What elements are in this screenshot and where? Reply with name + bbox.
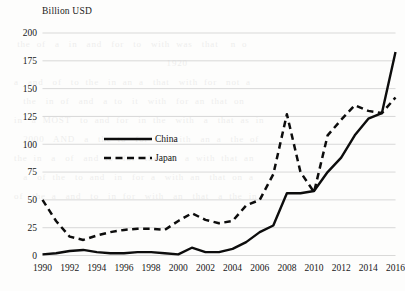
y-tick-label-125: 125 <box>23 112 38 122</box>
x-tick-label-2014: 2014 <box>359 263 378 273</box>
y-tick-label-25: 25 <box>28 223 38 233</box>
legend-label-china: China <box>155 134 178 144</box>
y-tick-label-0: 0 <box>32 251 37 261</box>
y-tick-label-200: 200 <box>23 28 38 38</box>
y-tick-label-75: 75 <box>28 167 38 177</box>
x-tick-label-1998: 1998 <box>142 263 161 273</box>
y-tick-label-100: 100 <box>23 140 38 150</box>
x-tick-label-2012: 2012 <box>332 263 351 273</box>
x-tick-label-1994: 1994 <box>87 263 106 273</box>
y-tick-label-50: 50 <box>28 195 38 205</box>
x-tick-label-1992: 1992 <box>60 263 79 273</box>
x-tick-label-2008: 2008 <box>277 263 296 273</box>
line-chart-plot: 0255075100125150175200 19901992199419961… <box>0 0 405 291</box>
x-tick-label-2002: 2002 <box>196 263 215 273</box>
y-tick-label-150: 150 <box>23 84 38 94</box>
legend-label-japan: Japan <box>155 153 177 163</box>
x-tick-label-2004: 2004 <box>223 263 242 273</box>
series-line-japan <box>43 98 396 240</box>
series-group <box>43 52 396 254</box>
x-tick-labels-group: 1990199219941996199820002002200420062008… <box>33 263 405 273</box>
x-tick-label-1990: 1990 <box>33 263 52 273</box>
x-tick-label-2016: 2016 <box>386 263 405 273</box>
x-tick-label-2000: 2000 <box>169 263 188 273</box>
x-tick-label-1996: 1996 <box>114 263 133 273</box>
y-tick-label-175: 175 <box>23 56 38 66</box>
x-tick-label-2006: 2006 <box>250 263 269 273</box>
x-tick-label-2010: 2010 <box>305 263 324 273</box>
chart-container: the of a in and for to with was that n o… <box>0 0 405 291</box>
y-tick-labels-group: 0255075100125150175200 <box>23 28 38 261</box>
legend-group: ChinaJapan <box>104 134 178 163</box>
